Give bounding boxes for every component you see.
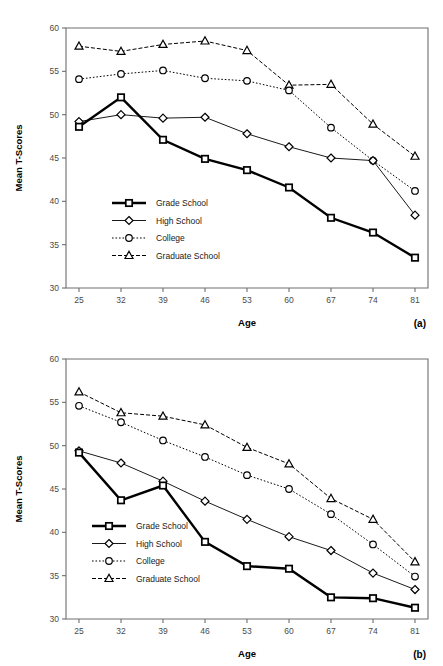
y-axis-title: Mean T-Scores [13,455,24,522]
data-point-diamond [411,211,419,219]
data-point-circle [244,78,251,85]
panel-tag: (a) [414,318,426,329]
data-point-circle [370,541,377,548]
data-point-circle [76,403,83,410]
data-point-circle [412,573,419,580]
data-point-diamond [105,540,113,548]
y-tick-label: 60 [50,354,60,364]
data-point-circle [328,124,335,131]
data-point-circle [118,71,125,78]
x-tick-label: 32 [116,626,126,636]
y-tick-label: 45 [50,484,60,494]
x-tick-label: 25 [74,626,84,636]
legend-label-high-school: High School [156,216,202,226]
series-line-grade-school [79,97,415,257]
data-point-triangle [105,574,113,581]
y-tick-label: 45 [50,153,60,163]
x-tick-label: 81 [410,295,420,305]
y-tick-label: 40 [50,196,60,206]
chart-svg-b: 30354045505560253239465360677481Grade Sc… [0,331,443,666]
x-tick-label: 74 [368,626,378,636]
x-tick-label: 60 [284,295,294,305]
x-tick-label: 74 [368,295,378,305]
x-tick-label: 53 [242,626,252,636]
y-tick-label: 30 [50,283,60,293]
data-point-triangle [285,460,293,467]
x-axis-title: Age [238,317,256,328]
data-point-circle [106,558,113,565]
data-point-circle [202,454,209,461]
data-point-triangle [75,42,83,49]
x-tick-label: 46 [200,295,210,305]
data-point-square [412,605,418,611]
series-line-graduate-school [79,41,415,156]
data-point-square [126,200,132,206]
series-markers-graduate-school [75,37,419,159]
data-point-circle [118,419,125,426]
x-tick-label: 46 [200,626,210,636]
data-point-circle [76,76,83,83]
data-point-triangle [411,152,419,159]
legend: Grade SchoolHigh SchoolCollegeGraduate S… [112,198,220,261]
legend-label-grade-school: Grade School [136,521,188,531]
data-point-triangle [327,494,335,501]
data-point-triangle [369,515,377,522]
data-point-circle [160,437,167,444]
x-tick-label: 67 [326,295,336,305]
data-point-triangle [117,409,125,416]
data-point-circle [126,235,133,242]
data-point-triangle [243,443,251,450]
data-point-square [370,229,376,235]
data-point-diamond [243,130,251,138]
y-tick-label: 35 [50,571,60,581]
y-axis-title: Mean T-Scores [13,124,24,191]
data-point-diamond [327,154,335,162]
x-tick-label: 39 [158,295,168,305]
data-point-triangle [125,251,133,258]
series-markers-high-school [75,447,419,594]
series-line-college [79,406,415,577]
legend: Grade SchoolHigh SchoolCollegeGraduate S… [92,521,200,584]
data-point-diamond [117,111,125,119]
x-tick-label: 32 [116,295,126,305]
y-tick-label: 55 [50,397,60,407]
data-point-circle [202,75,209,82]
data-point-square [244,167,250,173]
data-point-diamond [285,143,293,151]
x-tick-label: 60 [284,626,294,636]
legend-label-graduate-school: Graduate School [136,574,200,584]
data-point-diamond [369,157,377,165]
x-tick-label: 67 [326,626,336,636]
data-point-circle [412,188,419,195]
data-point-square [244,563,250,569]
data-point-square [160,137,166,143]
data-point-diamond [125,217,133,225]
legend-label-grade-school: Grade School [156,198,208,208]
y-tick-label: 50 [50,110,60,120]
data-point-triangle [327,80,335,87]
data-point-square [286,184,292,190]
chart-svg-a: 30354045505560253239465360677481Grade Sc… [0,0,443,335]
y-tick-label: 55 [50,66,60,76]
x-tick-label: 39 [158,626,168,636]
data-point-square [76,449,82,455]
data-point-square [412,254,418,260]
data-point-circle [160,67,167,74]
data-point-square [106,523,112,529]
data-point-circle [328,511,335,518]
data-point-square [286,566,292,572]
x-tick-label: 25 [74,295,84,305]
data-point-diamond [117,459,125,467]
data-point-triangle [201,37,209,44]
y-tick-label: 50 [50,441,60,451]
legend-label-college: College [156,233,185,243]
data-point-diamond [201,497,209,505]
data-point-diamond [243,515,251,523]
chart-panel-b: 30354045505560253239465360677481Grade Sc… [0,331,443,666]
data-point-circle [244,472,251,479]
chart-panel-a: 30354045505560253239465360677481Grade Sc… [0,0,443,335]
data-point-square [370,595,376,601]
data-point-triangle [243,46,251,53]
data-point-diamond [159,114,167,122]
y-tick-label: 40 [50,527,60,537]
